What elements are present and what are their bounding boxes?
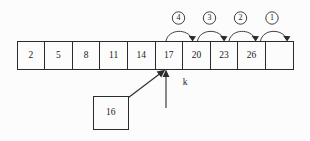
array-cell-6[interactable]: 20 bbox=[183, 41, 211, 69]
array-cell-3[interactable]: 11 bbox=[100, 41, 128, 69]
array-cell-0-value: 2 bbox=[28, 50, 33, 60]
step-number-4-label: 4 bbox=[177, 13, 181, 22]
insert-value-arrow-shaft bbox=[129, 73, 162, 98]
array-cell-9-box[interactable] bbox=[265, 41, 293, 69]
array-cell-5[interactable]: 17 bbox=[155, 41, 183, 69]
array-cell-4[interactable]: 14 bbox=[127, 41, 155, 69]
array-cell-2[interactable]: 8 bbox=[72, 41, 100, 69]
shift-arc-2 bbox=[229, 31, 255, 41]
array-cell-0[interactable]: 2 bbox=[17, 41, 45, 69]
array-cell-1-value: 5 bbox=[56, 50, 61, 60]
shift-arrow-group bbox=[166, 31, 291, 41]
array-cell-8-value: 26 bbox=[247, 50, 257, 60]
array-cell-9[interactable] bbox=[265, 41, 293, 69]
k-pointer-label: k bbox=[183, 77, 188, 87]
k-pointer-arrow: k bbox=[163, 70, 188, 109]
array-cell-7[interactable]: 23 bbox=[210, 41, 238, 69]
insert-value-box[interactable]: 16 bbox=[93, 96, 129, 129]
shift-arc-1 bbox=[261, 31, 287, 41]
insert-value-text: 16 bbox=[106, 107, 116, 117]
array-row: 2 5 8 11 14 17 bbox=[17, 41, 293, 69]
step-number-2-label: 2 bbox=[239, 13, 243, 22]
shift-arc-4 bbox=[166, 31, 192, 41]
array-cell-7-value: 23 bbox=[219, 50, 229, 60]
array-cell-6-value: 20 bbox=[192, 50, 202, 60]
array-cell-8[interactable]: 26 bbox=[238, 41, 266, 69]
step-number-3: 3 bbox=[203, 12, 215, 24]
shift-arc-3 bbox=[198, 31, 224, 41]
step-number-1: 1 bbox=[266, 12, 278, 24]
array-cell-2-value: 8 bbox=[84, 50, 89, 60]
step-number-1-label: 1 bbox=[270, 13, 274, 22]
insert-value-arrow bbox=[129, 70, 166, 98]
array-cell-3-value: 11 bbox=[109, 50, 118, 60]
array-cell-5-value: 17 bbox=[164, 50, 174, 60]
array-cell-1[interactable]: 5 bbox=[45, 41, 73, 69]
array-shift-diagram: 4 3 2 1 2 5 bbox=[0, 0, 310, 141]
diagram-canvas: 4 3 2 1 2 5 bbox=[0, 0, 310, 141]
step-number-4: 4 bbox=[172, 12, 184, 24]
array-cell-4-value: 14 bbox=[136, 50, 146, 60]
step-number-group: 4 3 2 1 bbox=[172, 12, 278, 24]
step-number-3-label: 3 bbox=[208, 13, 212, 22]
step-number-2: 2 bbox=[234, 12, 246, 24]
